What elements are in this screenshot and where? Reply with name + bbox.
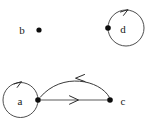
node-a-label: a xyxy=(18,95,23,107)
edge-a-to-c[interactable] xyxy=(41,96,108,104)
node-d[interactable]: d xyxy=(105,10,144,46)
edge-c-to-a-arrowhead-icon xyxy=(76,75,86,82)
node-a-loop-arrowhead-icon xyxy=(14,82,22,88)
node-b-dot[interactable] xyxy=(36,27,41,32)
node-b-label: b xyxy=(19,24,25,36)
node-d-self-loop xyxy=(108,10,144,46)
node-b[interactable]: b xyxy=(19,24,41,36)
graph-canvas: b d a c xyxy=(0,0,153,127)
node-c-label: c xyxy=(121,95,126,107)
edge-c-to-a-arc xyxy=(40,81,110,97)
edge-c-to-a[interactable] xyxy=(40,75,110,98)
node-c[interactable]: c xyxy=(107,95,125,107)
node-d-dot[interactable] xyxy=(105,25,111,31)
directed-graph-figure: b d a c xyxy=(0,0,153,127)
node-a-dot[interactable] xyxy=(35,97,41,103)
node-d-label: d xyxy=(120,23,126,35)
node-c-dot[interactable] xyxy=(107,97,113,103)
node-a[interactable]: a xyxy=(3,82,41,118)
